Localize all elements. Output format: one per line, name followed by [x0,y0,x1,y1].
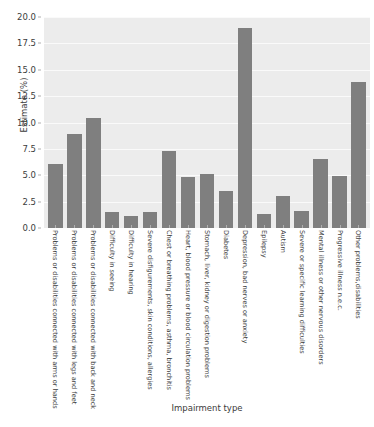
y-tick-mark [38,201,41,202]
bar[interactable] [219,191,233,228]
x-tick-label: Progressive illness n.e.c. [336,230,343,311]
x-tick-mark [150,225,151,228]
x-tick-slot: Problems or disabilities connected with … [46,228,65,400]
y-tick-label: 10.0 [17,118,36,128]
x-tick-mark [55,225,56,228]
plot-area [44,17,370,228]
bar-slot [198,17,217,228]
x-tick-label: Problems or disabilities connected with … [90,230,97,409]
x-tick-slot: Problems or disabilities connected with … [65,228,84,400]
bar[interactable] [238,28,252,228]
y-tick-mark [38,122,41,123]
bar-slot [141,17,160,228]
x-tick-mark [112,225,113,228]
y-tick-mark [38,228,41,229]
y-tick-mark [38,175,41,176]
x-tick-mark [169,225,170,228]
x-tick-label: Severe or specific learning difficulties [298,230,305,354]
x-tick-label: Problems or disabilities connected with … [52,230,59,409]
x-tick-mark [93,225,94,228]
y-tick-mark [38,148,41,149]
x-tick-label: Diabetes [223,230,230,259]
x-tick-slot: Difficulty in hearing [122,228,141,400]
bar[interactable] [162,151,176,228]
y-axis-tick-labels: 0.02.55.07.510.012.515.017.520.0 [0,17,41,228]
x-axis-title: Impairment type [44,403,370,413]
x-tick-slot: Problems or disabilities connected with … [84,228,103,400]
bar-slot [46,17,65,228]
x-tick-mark [188,225,189,228]
x-tick-label: Epilepsy [260,230,267,258]
x-tick-slot: Difficulty in seeing [103,228,122,400]
x-tick-slot: Stomach, liver, kidney or digestion prob… [198,228,217,400]
bar-slot [349,17,368,228]
bar-slot [273,17,292,228]
bar-slot [65,17,84,228]
x-tick-slot: Other problems,disabilities [349,228,368,400]
x-tick-slot: Progressive illness n.e.c. [330,228,349,400]
x-tick-slot: Autism [273,228,292,400]
bar[interactable] [200,174,214,228]
bar-slot [254,17,273,228]
x-tick-label: Difficulty in seeing [109,230,116,291]
x-tick-label: Depression, bad nerves or anxiety [242,230,249,343]
bar-slot [216,17,235,228]
x-tick-label: Autism [279,230,286,253]
x-tick-mark [340,225,341,228]
x-tick-label: Chest or breathing problems, asthma, bro… [166,230,173,390]
bar-slot [122,17,141,228]
bar-series [44,17,370,228]
bar-slot [103,17,122,228]
bar[interactable] [351,82,365,228]
bar[interactable] [313,159,327,228]
x-tick-label: Heart, blood pressure or blood circulati… [185,230,192,400]
bar-slot [84,17,103,228]
bar[interactable] [67,134,81,228]
x-tick-slot: Diabetes [216,228,235,400]
x-tick-slot: Severe or specific learning difficulties [292,228,311,400]
y-tick-mark [38,43,41,44]
bar-slot [311,17,330,228]
bar[interactable] [332,176,346,228]
y-tick-label: 0.0 [22,223,36,233]
y-tick-label: 7.5 [22,144,36,154]
x-tick-mark [245,225,246,228]
x-tick-slot: Heart, blood pressure or blood circulati… [179,228,198,400]
x-tick-slot: Depression, bad nerves or anxiety [235,228,254,400]
x-tick-label: Stomach, liver, kidney or digestion prob… [204,230,211,378]
bar-slot [292,17,311,228]
x-tick-mark [207,225,208,228]
x-tick-slot: Chest or breathing problems, asthma, bro… [160,228,179,400]
x-tick-mark [74,225,75,228]
bar[interactable] [276,196,290,228]
bar-slot [160,17,179,228]
x-tick-mark [283,225,284,228]
x-tick-label: Other problems,disabilities [355,230,362,319]
bar-slot [235,17,254,228]
y-tick-label: 15.0 [17,65,36,75]
y-tick-label: 5.0 [22,170,36,180]
y-tick-mark [38,96,41,97]
x-tick-mark [264,225,265,228]
x-tick-mark [226,225,227,228]
x-tick-slot: Severe disfigurements, skin conditions, … [141,228,160,400]
y-tick-label: 12.5 [17,91,36,101]
x-tick-label: Severe disfigurements, skin conditions, … [147,230,154,390]
bar-slot [330,17,349,228]
x-tick-slot: Mental illness or other nervous disorder… [311,228,330,400]
y-tick-label: 2.5 [22,197,36,207]
x-tick-label: Difficulty in hearing [128,230,135,295]
x-tick-mark [358,225,359,228]
y-tick-label: 20.0 [17,12,36,22]
x-tick-mark [131,225,132,228]
y-tick-mark [38,69,41,70]
x-tick-slot: Epilepsy [254,228,273,400]
bar[interactable] [181,177,195,228]
bar[interactable] [48,164,62,228]
bar-chart-figure: Estimate (%) 0.02.55.07.510.012.515.017.… [0,0,374,427]
y-tick-label: 17.5 [17,38,36,48]
x-tick-mark [321,225,322,228]
bar-slot [179,17,198,228]
bar[interactable] [86,118,100,228]
y-tick-mark [38,17,41,18]
